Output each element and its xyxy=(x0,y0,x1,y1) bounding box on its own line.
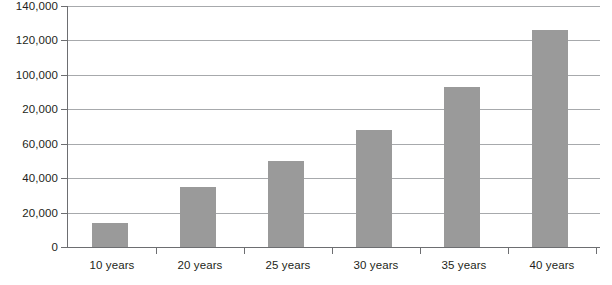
bar-30-years xyxy=(356,130,392,247)
y-tick-mark xyxy=(61,247,67,248)
bar-25-years xyxy=(268,161,304,247)
x-tick-mark xyxy=(244,248,245,254)
bar-40-years xyxy=(532,30,568,247)
y-axis-label-20000: 20,000 xyxy=(2,208,58,220)
x-axis-label-10-years: 10 years xyxy=(68,259,156,272)
y-axis-label-140000: 140,000 xyxy=(2,1,58,13)
bar-chart: 140,000 120,000 100,000 20,000 60,000 40… xyxy=(0,0,612,285)
x-tick-mark xyxy=(332,248,333,254)
x-axis-label-35-years: 35 years xyxy=(420,259,508,272)
bar-20-years xyxy=(180,187,216,247)
x-tick-mark xyxy=(508,248,509,254)
y-axis-label-60000: 60,000 xyxy=(2,139,58,151)
gridline-zero-baseline xyxy=(67,247,600,248)
y-axis-label-100000: 100,000 xyxy=(2,70,58,82)
x-axis-label-30-years: 30 years xyxy=(332,259,420,272)
x-tick-mark xyxy=(596,248,597,254)
x-axis-label-40-years: 40 years xyxy=(508,259,596,272)
bars-layer xyxy=(67,6,600,247)
y-axis-label-120000: 120,000 xyxy=(2,35,58,47)
x-tick-mark xyxy=(420,248,421,254)
x-tick-mark xyxy=(156,248,157,254)
x-axis-label-20-years: 20 years xyxy=(156,259,244,272)
bar-10-years xyxy=(92,223,128,247)
y-axis-label-40000: 40,000 xyxy=(2,173,58,185)
y-axis-label-0: 0 xyxy=(2,242,58,254)
bar-35-years xyxy=(444,87,480,247)
y-axis-label-80000: 20,000 xyxy=(2,104,58,116)
x-axis-label-25-years: 25 years xyxy=(244,259,332,272)
